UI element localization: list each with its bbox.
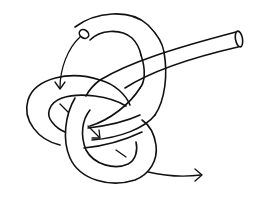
knot-illustration	[0, 0, 259, 198]
rope-lower-loop	[65, 98, 156, 183]
rope-end-top-left-icon	[75, 14, 164, 55]
knot-diagram: Knot tying diagram	[0, 0, 259, 198]
rope-left-loop	[27, 76, 130, 145]
exit-arrow-icon	[148, 169, 202, 181]
entry-arrow-icon	[55, 37, 80, 89]
